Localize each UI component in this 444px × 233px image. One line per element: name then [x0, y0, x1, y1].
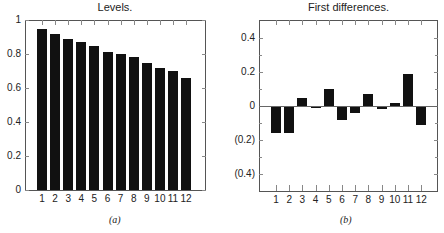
bar-7	[350, 106, 360, 113]
y-tick-label: 0	[215, 100, 255, 111]
x-tick-label: 12	[414, 194, 428, 205]
y-tick-mark	[259, 140, 263, 141]
bar-12	[416, 106, 426, 125]
x-tick-top	[186, 20, 187, 25]
bar-11	[168, 71, 178, 190]
y-tick-label: 0.4	[0, 116, 21, 127]
bar-4	[76, 42, 86, 190]
x-tick-label: 11	[166, 193, 180, 204]
x-tick-label: 4	[74, 193, 88, 204]
y-minor-tick	[259, 55, 262, 56]
x-tick-bottom	[302, 185, 303, 191]
y-tick-mark	[25, 156, 29, 157]
y-minor-tick-right	[435, 89, 438, 90]
y-minor-tick-right	[435, 55, 438, 56]
y-tick-label: 1	[0, 14, 21, 25]
y-tick-label: 0.2	[215, 66, 255, 77]
bar-9	[142, 63, 152, 191]
bar-11	[403, 74, 413, 106]
y-minor-tick-right	[435, 157, 438, 158]
bar-10	[155, 68, 165, 190]
first-differences-chart-title: First differences.	[259, 1, 438, 13]
bar-5	[89, 46, 99, 191]
x-tick-bottom	[395, 185, 396, 191]
x-tick-top	[160, 20, 161, 25]
bar-12	[181, 78, 191, 190]
bar-8	[129, 57, 139, 190]
x-tick-label: 1	[35, 193, 49, 204]
bar-8	[363, 94, 373, 106]
x-tick-label: 8	[127, 193, 141, 204]
x-tick-top	[147, 20, 148, 25]
y-tick-mark	[25, 122, 29, 123]
bar-3	[297, 98, 307, 107]
x-tick-bottom	[329, 185, 330, 191]
y-tick-mark-right	[434, 72, 438, 73]
x-tick-label: 8	[361, 194, 375, 205]
x-tick-top	[302, 20, 303, 25]
x-tick-bottom	[355, 185, 356, 191]
x-tick-top	[68, 20, 69, 25]
x-tick-bottom	[342, 185, 343, 191]
y-tick-mark	[259, 38, 263, 39]
x-tick-top	[108, 20, 109, 25]
x-tick-label: 11	[401, 194, 415, 205]
bar-6	[337, 106, 347, 120]
x-tick-top	[382, 20, 383, 25]
x-tick-bottom	[289, 185, 290, 191]
x-tick-label: 10	[388, 194, 402, 205]
x-tick-top	[81, 20, 82, 25]
y-tick-label: 0.2	[0, 150, 21, 161]
x-tick-bottom	[276, 185, 277, 191]
y-tick-mark	[259, 72, 263, 73]
bar-6	[103, 52, 113, 190]
y-tick-mark-right	[434, 140, 438, 141]
x-tick-label: 12	[179, 193, 193, 204]
x-tick-top	[121, 20, 122, 25]
caption-a: (a)	[109, 214, 121, 225]
x-tick-label: 3	[61, 193, 75, 204]
y-tick-mark-right	[202, 54, 206, 55]
zero-line	[259, 106, 438, 107]
y-tick-label: 0	[0, 184, 21, 195]
bar-2	[284, 106, 294, 133]
caption-b: (b)	[340, 214, 352, 225]
x-tick-label: 5	[322, 194, 336, 205]
x-tick-bottom	[408, 185, 409, 191]
x-tick-label: 6	[335, 194, 349, 205]
bar-1	[271, 106, 281, 133]
x-tick-top	[173, 20, 174, 25]
x-tick-label: 2	[48, 193, 62, 204]
y-minor-tick	[259, 89, 262, 90]
x-tick-bottom	[382, 185, 383, 191]
x-tick-bottom	[368, 185, 369, 191]
y-tick-mark-right	[202, 190, 206, 191]
x-tick-bottom	[421, 185, 422, 191]
y-tick-mark-right	[202, 88, 206, 89]
x-tick-bottom	[316, 185, 317, 191]
x-tick-label: 4	[309, 194, 323, 205]
y-tick-label: (0.2)	[215, 134, 255, 145]
y-minor-tick	[259, 123, 262, 124]
x-tick-top	[134, 20, 135, 25]
x-tick-top	[342, 20, 343, 25]
x-tick-label: 7	[348, 194, 362, 205]
x-tick-top	[368, 20, 369, 25]
y-minor-tick	[259, 157, 262, 158]
x-tick-top	[408, 20, 409, 25]
x-tick-label: 1	[269, 194, 283, 205]
y-tick-mark-right	[202, 156, 206, 157]
y-tick-mark	[25, 190, 29, 191]
levels-chart-title: Levels.	[25, 1, 205, 13]
x-tick-label: 2	[282, 194, 296, 205]
x-tick-label: 5	[87, 193, 101, 204]
y-tick-mark	[259, 174, 263, 175]
x-tick-top	[395, 20, 396, 25]
y-tick-mark-right	[202, 122, 206, 123]
x-tick-top	[421, 20, 422, 25]
x-tick-top	[276, 20, 277, 25]
bar-1	[37, 29, 47, 191]
x-tick-top	[42, 20, 43, 25]
x-tick-top	[355, 20, 356, 25]
x-tick-label: 7	[114, 193, 128, 204]
